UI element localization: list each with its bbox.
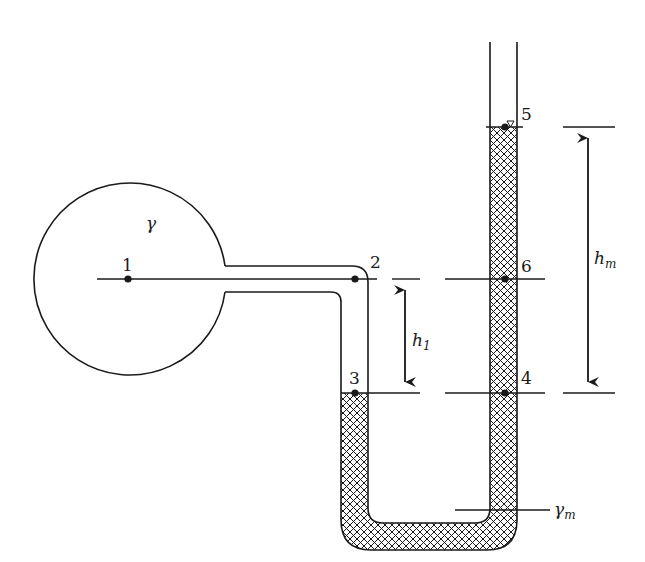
point-6-dot bbox=[501, 275, 508, 282]
points bbox=[124, 123, 508, 396]
point-1-label: 1 bbox=[122, 255, 133, 275]
point-5-dot bbox=[501, 123, 508, 130]
vessel-outline bbox=[34, 42, 517, 550]
point-4-label: 4 bbox=[521, 368, 532, 388]
manometer-diagram: 1 2 3 4 5 6 γ h1 hm γm bbox=[0, 0, 645, 562]
point-3-label: 3 bbox=[349, 368, 360, 388]
point-1-dot bbox=[124, 275, 131, 282]
point-3-dot bbox=[351, 389, 358, 396]
point-5-label: 5 bbox=[521, 104, 532, 124]
hm-label: hm bbox=[594, 248, 616, 271]
point-6-label: 6 bbox=[521, 256, 532, 276]
point-4-dot bbox=[501, 389, 508, 396]
vessel-fluid-label: γ bbox=[146, 213, 157, 233]
point-2-dot bbox=[351, 275, 358, 282]
h1-label: h1 bbox=[412, 330, 431, 353]
manometer-fluid-label: γm bbox=[554, 499, 576, 522]
point-2-label: 2 bbox=[370, 252, 381, 272]
